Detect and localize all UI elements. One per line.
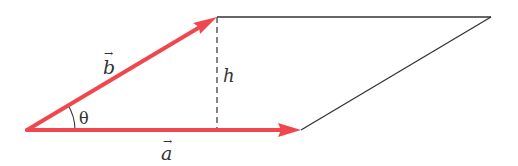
angle-arc xyxy=(68,104,76,130)
parallelogram-diagram: b → a → h θ xyxy=(0,0,518,166)
vector-b-arrow xyxy=(27,24,205,130)
diagram-canvas: b → a → h θ xyxy=(0,0,518,166)
right-edge xyxy=(301,17,491,130)
height-label: h xyxy=(223,65,235,86)
vector-b-arrowhead-icon xyxy=(193,17,217,34)
angle-label: θ xyxy=(79,109,89,128)
vector-a-arrowhead-icon xyxy=(278,123,301,137)
vector-a-accent-icon: → xyxy=(163,135,172,148)
vector-b-accent-icon: → xyxy=(104,47,113,60)
